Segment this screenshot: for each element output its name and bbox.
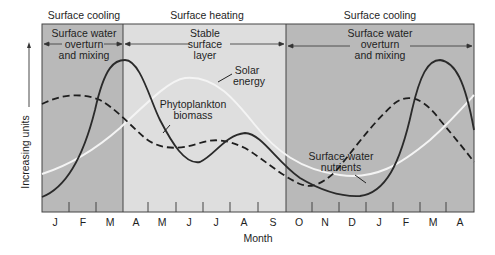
y-axis-label: Increasing units bbox=[19, 115, 31, 189]
month-label: M bbox=[429, 216, 438, 228]
month-label: J bbox=[213, 216, 218, 228]
month-label: D bbox=[348, 216, 356, 228]
month-label: M bbox=[106, 216, 115, 228]
phyto-label-line2: biomass bbox=[173, 109, 212, 121]
month-label: N bbox=[321, 216, 329, 228]
seasonal-cycle-diagram: Surface cooling Surface heating Surface … bbox=[0, 0, 495, 255]
month-label: J bbox=[186, 216, 191, 228]
nutrients-label-line2: nutrients bbox=[321, 161, 361, 173]
solar-label-line2: energy bbox=[233, 75, 266, 87]
month-label: J bbox=[376, 216, 381, 228]
period3-inner-line3: and mixing bbox=[355, 49, 406, 61]
period2-inner-line3: layer bbox=[194, 49, 217, 61]
y-axis-label-group: Increasing units bbox=[19, 42, 31, 189]
period1-inner-line3: and mixing bbox=[59, 49, 110, 61]
month-label: A bbox=[132, 216, 139, 228]
month-label: F bbox=[403, 216, 409, 228]
month-labels: J F M A M J J A S O N D J F M A bbox=[52, 216, 463, 228]
month-label: M bbox=[158, 216, 167, 228]
period2-top-label: Surface heating bbox=[170, 9, 244, 21]
y-axis-arrow-head bbox=[27, 42, 31, 48]
month-label: A bbox=[456, 216, 463, 228]
month-label: O bbox=[295, 216, 303, 228]
month-label: S bbox=[269, 216, 276, 228]
month-label: J bbox=[52, 216, 57, 228]
period3-top-label: Surface cooling bbox=[344, 9, 417, 21]
x-axis-label: Month bbox=[243, 232, 272, 244]
month-label: A bbox=[240, 216, 247, 228]
period1-top-label: Surface cooling bbox=[48, 9, 121, 21]
month-label: F bbox=[80, 216, 86, 228]
